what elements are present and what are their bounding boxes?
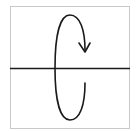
rotation-diagram — [0, 0, 138, 131]
rotation-curve — [55, 15, 85, 120]
diagram-frame — [11, 7, 130, 129]
